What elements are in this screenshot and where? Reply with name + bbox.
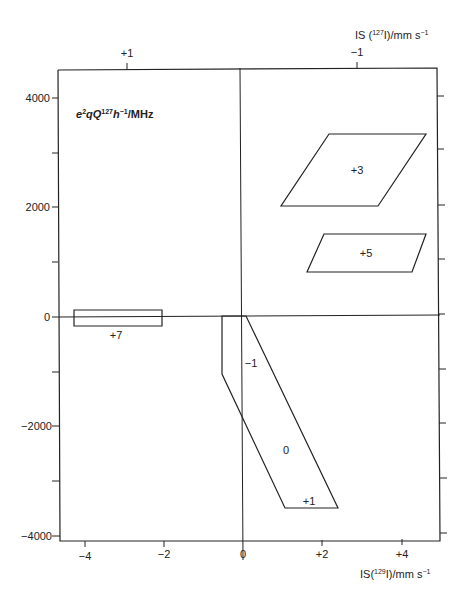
x-tick-labels: −4 −2 0 +2 +4: [79, 548, 409, 562]
y-axis-label: e2qQ127h−1/MHz: [76, 108, 154, 120]
svg-text:+2: +2: [316, 548, 329, 560]
y-tick-labels: 4000 2000 0 −2000 −4000: [21, 92, 52, 542]
svg-text:−2000: −2000: [21, 420, 52, 432]
region-label-plus1: +1: [303, 495, 316, 507]
region-minus1-0-plus1: [222, 316, 338, 508]
svg-text:+4: +4: [396, 548, 409, 560]
svg-text:−1: −1: [351, 46, 364, 58]
region-label-plus5: +5: [360, 247, 373, 259]
region-label-zero: 0: [283, 444, 289, 456]
plot-frame: [58, 68, 440, 541]
region-label-plus7: +7: [110, 329, 123, 341]
svg-text:4000: 4000: [26, 92, 50, 104]
x2-axis-label: IS (127I)/mm s−1: [355, 29, 429, 41]
bottom-x-ticks: [85, 539, 402, 547]
region-label-plus3: +3: [351, 164, 364, 176]
x-zero-axis: [58, 315, 440, 317]
svg-text:−4000: −4000: [21, 530, 52, 542]
svg-text:+1: +1: [121, 47, 134, 59]
region-label-minus1: −1: [245, 357, 258, 369]
svg-text:0: 0: [44, 311, 50, 323]
svg-text:0: 0: [240, 548, 246, 560]
right-y-ticks: [437, 96, 447, 533]
svg-text:−4: −4: [79, 550, 92, 562]
svg-text:−2: −2: [158, 548, 171, 560]
x2-tick-labels: +1 −1: [121, 46, 364, 59]
region-plus7: [74, 310, 162, 326]
x-axis-label: IS(129I)/mm s−1: [360, 568, 431, 580]
y-zero-axis: [240, 68, 243, 560]
chart-canvas: 4000 2000 0 −2000 −4000 −4 −2 0 +2 +4 +1…: [0, 0, 467, 601]
svg-text:2000: 2000: [26, 201, 50, 213]
